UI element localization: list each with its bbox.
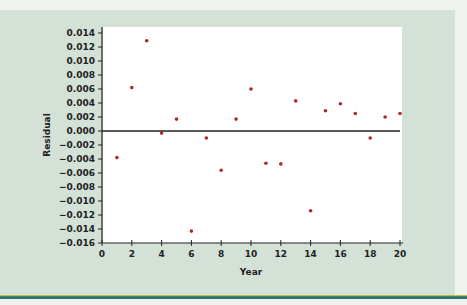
data-point xyxy=(368,136,372,140)
data-point xyxy=(279,162,283,166)
y-tick-label: −0.008 xyxy=(59,182,95,192)
y-tick-label: −0.016 xyxy=(59,238,95,248)
x-tick-label: 8 xyxy=(218,249,224,259)
y-axis-title: Residual xyxy=(42,113,52,156)
x-tick-label: 4 xyxy=(158,249,164,259)
y-tick-label: 0.004 xyxy=(67,98,95,108)
y-tick-label: −0.014 xyxy=(59,224,95,234)
data-point xyxy=(219,168,223,172)
y-tick-label: 0.002 xyxy=(67,112,95,122)
y-tick-label: −0.006 xyxy=(59,168,95,178)
y-tick-label: 0.014 xyxy=(67,28,95,38)
y-tick-label: 0.010 xyxy=(67,56,95,66)
data-point xyxy=(264,161,268,165)
y-tick-label: 0.012 xyxy=(67,42,95,52)
data-point xyxy=(205,136,209,140)
data-point xyxy=(145,39,149,43)
data-point xyxy=(354,112,358,116)
data-point xyxy=(115,156,119,160)
y-axis: 0.0140.0120.0100.0080.0060.0040.0020.000… xyxy=(59,27,102,248)
data-point xyxy=(234,117,238,121)
x-tick-label: 6 xyxy=(188,249,194,259)
y-tick-label: −0.010 xyxy=(59,196,95,206)
data-point xyxy=(294,99,298,103)
data-point xyxy=(339,102,343,106)
y-tick-label: −0.004 xyxy=(59,154,95,164)
data-point xyxy=(249,87,253,91)
y-tick-label: 0.006 xyxy=(67,84,95,94)
data-point xyxy=(398,112,402,116)
plot-area xyxy=(103,27,402,243)
x-axis-title: Year xyxy=(239,267,263,277)
y-tick-label: −0.012 xyxy=(59,210,95,220)
data-point xyxy=(130,86,134,90)
x-axis: 02468101214161820 xyxy=(99,240,406,259)
y-tick-label: 0.000 xyxy=(67,126,95,136)
data-point xyxy=(324,109,328,113)
y-tick-label: −0.002 xyxy=(59,140,95,150)
x-tick-label: 14 xyxy=(304,249,317,259)
x-tick-label: 2 xyxy=(129,249,135,259)
x-tick-label: 12 xyxy=(275,249,288,259)
x-tick-label: 0 xyxy=(99,249,105,259)
x-tick-label: 10 xyxy=(245,249,258,259)
y-tick-label: 0.008 xyxy=(67,70,95,80)
x-tick-label: 16 xyxy=(334,249,347,259)
data-point xyxy=(309,209,313,213)
data-point xyxy=(175,117,179,121)
data-point xyxy=(383,115,387,119)
residual-scatter-chart: 0.0140.0120.0100.0080.0060.0040.0020.000… xyxy=(0,0,467,305)
x-tick-label: 18 xyxy=(364,249,377,259)
data-point xyxy=(160,131,164,135)
x-tick-label: 20 xyxy=(394,249,407,259)
data-point xyxy=(190,229,194,233)
